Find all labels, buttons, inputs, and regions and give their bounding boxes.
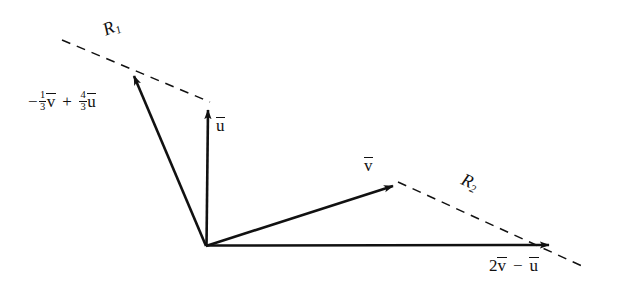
vector-arrow-combo-right: [206, 245, 549, 246]
label-combo-right-var-v: v: [498, 256, 507, 274]
vector-arrow-combo-left: [134, 76, 206, 246]
label-vector-v-text: v: [364, 156, 373, 174]
label-combo-right-operator: −: [513, 257, 523, 274]
fraction-one-denominator: 3: [39, 101, 46, 113]
fraction-two-denominator: 3: [79, 101, 86, 113]
label-combo-left-var-v: v: [47, 92, 56, 110]
dashed-line-r2: [398, 182, 582, 266]
label-combo-right: 2 v − u: [489, 256, 538, 274]
label-combo-right-var-u: u: [530, 256, 539, 274]
label-vector-u: u: [216, 116, 225, 134]
label-combo-left-fraction-two: 4 3: [79, 90, 86, 112]
fraction-one-numerator: 1: [39, 90, 46, 101]
fraction-two-numerator: 4: [79, 90, 86, 101]
label-combo-left: − 1 3 v + 4 3 u: [28, 90, 96, 112]
label-vector-v: v: [364, 156, 373, 174]
label-combo-right-coefficient: 2: [489, 257, 498, 274]
vector-arrow-v: [206, 186, 393, 246]
vector-arrow-u: [207, 110, 209, 246]
label-combo-left-fraction-one: 1 3: [39, 90, 46, 112]
label-combo-left-operator: +: [62, 93, 72, 110]
label-combo-left-var-u: u: [87, 92, 96, 110]
label-vector-u-text: u: [216, 116, 225, 134]
label-combo-left-sign: −: [28, 93, 38, 110]
vector-diagram-canvas: [0, 0, 638, 292]
